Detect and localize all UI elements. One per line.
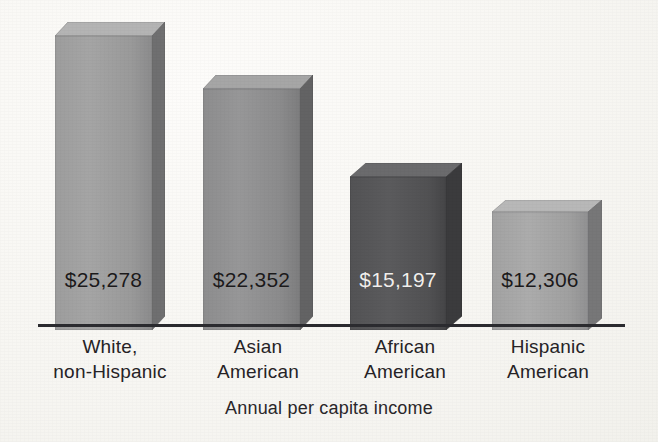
category-label-line2: American [458,359,638,384]
bar-chart: $25,278 $22,352 [0,0,658,442]
bar-front-face [203,89,300,330]
bar-top-face [492,200,602,212]
bar-front-face [350,177,446,330]
bar-white-non-hispanic[interactable]: $25,278 [55,22,165,330]
bar-african-american[interactable]: $15,197 [350,163,462,330]
bar-side-face [300,75,313,330]
bar-front-face [492,212,588,330]
axis-baseline [38,324,625,327]
bar-3d-shape [492,200,602,330]
category-label-line1: Hispanic [458,334,638,359]
bar-hispanic-american[interactable]: $12,306 [492,200,602,330]
category-label-hispanic-american: Hispanic American [458,334,638,384]
bar-asian-american[interactable]: $22,352 [203,75,313,330]
bar-top-face [350,163,462,177]
bar-side-face [446,163,462,330]
bar-3d-shape [203,75,313,330]
bar-top-face [203,75,313,89]
axis-title: Annual per capita income [0,398,658,419]
bar-side-face [152,22,165,330]
bar-3d-shape [350,163,462,330]
bar-front-face [55,36,152,330]
bar-top-face [55,22,165,36]
bar-3d-shape [55,22,165,330]
plot-area: $25,278 $22,352 [0,0,658,330]
bar-side-face [588,200,602,330]
